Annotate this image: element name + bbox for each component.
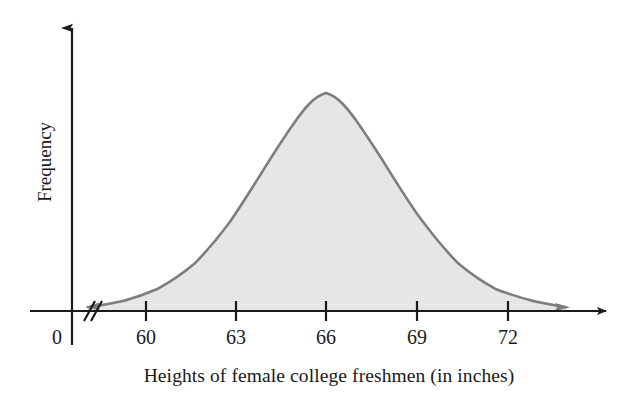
- x-tick-label-60: 60: [136, 326, 156, 348]
- x-tick-label-69: 69: [407, 326, 427, 348]
- chart-caption: Heights of female college freshmen (in i…: [144, 365, 515, 387]
- distribution-chart-canvas: 60 63 66 69 72 0 Frequency Heights of fe…: [0, 0, 643, 401]
- y-axis-label: Frequency: [34, 121, 55, 202]
- origin-label: 0: [52, 326, 62, 348]
- x-tick-label-63: 63: [226, 326, 246, 348]
- x-tick-label-66: 66: [316, 326, 336, 348]
- x-tick-label-72: 72: [498, 326, 518, 348]
- bell-curve-figure: 60 63 66 69 72 0 Frequency Heights of fe…: [0, 0, 643, 401]
- distribution-area-fill: [88, 93, 566, 311]
